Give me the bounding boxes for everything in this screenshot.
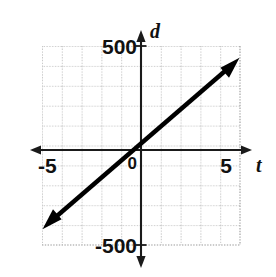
graph-figure: 500 -500 -5 5 0 d t	[0, 0, 276, 277]
x-axis-max-label: 5	[220, 154, 232, 177]
y-axis-min-label: -500	[95, 234, 137, 257]
y-axis-max-label: 500	[102, 35, 137, 58]
coordinate-plane-svg: 500 -500 -5 5 0 d t	[0, 0, 276, 277]
y-axis-variable-label: d	[150, 20, 161, 42]
origin-label: 0	[128, 154, 137, 173]
x-axis-min-label: -5	[38, 154, 57, 177]
